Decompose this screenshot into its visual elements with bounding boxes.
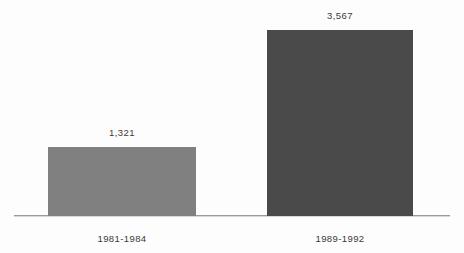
bar-value-label: 3,567	[267, 10, 413, 21]
bar-value-label: 1,321	[48, 127, 196, 138]
bar-rect[interactable]	[267, 30, 413, 216]
bar-category-label: 1981-1984	[48, 233, 196, 244]
x-axis-line-shadow	[14, 216, 450, 217]
bar-category-label: 1989-1992	[267, 233, 413, 244]
bar-chart: 1,321 1981-1984 3,567 1989-1992	[0, 0, 464, 253]
plot-area: 1,321 1981-1984 3,567 1989-1992	[0, 0, 464, 253]
bar-group-1981-1984: 1,321 1981-1984	[48, 147, 196, 216]
bar-group-1989-1992: 3,567 1989-1992	[267, 30, 413, 216]
bar-rect[interactable]	[48, 147, 196, 216]
